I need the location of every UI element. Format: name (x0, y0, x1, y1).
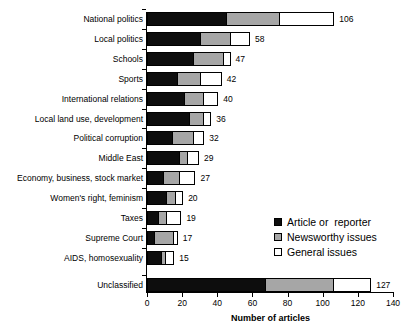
bar-segment-2 (193, 131, 205, 145)
legend-item-general[interactable]: General issues (274, 244, 377, 259)
bar-row (147, 191, 183, 205)
y-axis-tick (142, 168, 146, 169)
y-axis-tick (142, 128, 146, 129)
x-axis-tick (323, 293, 324, 297)
bar-total-label: 106 (339, 12, 353, 26)
bar-segment-2 (230, 32, 250, 46)
bar-segment-1 (193, 52, 224, 66)
y-axis-tick (142, 188, 146, 189)
bar-segment-2 (279, 12, 334, 26)
gray-square-icon (274, 233, 282, 241)
y-axis-tick (142, 29, 146, 30)
bar-segment-2 (203, 112, 211, 126)
category-label: AIDS, homosexuality (64, 253, 143, 263)
x-axis-tick (252, 293, 253, 297)
bar-segment-1 (154, 231, 174, 245)
x-axis-tick-label: 100 (308, 298, 338, 308)
bar-segment-1 (226, 12, 280, 26)
y-axis-tick (142, 148, 146, 149)
x-axis-tick-label: 80 (273, 298, 303, 308)
bar-segment-2 (175, 191, 183, 205)
bar-total-label: 127 (376, 278, 390, 292)
bar-row (147, 52, 231, 66)
category-label: International relations (62, 94, 143, 104)
bar-row (147, 131, 204, 145)
bar-segment-0 (147, 251, 162, 265)
y-axis-tick (142, 69, 146, 70)
bar-segment-0 (147, 151, 180, 165)
bar-row (147, 12, 334, 26)
bar-segment-1 (184, 92, 204, 106)
x-axis-tick (147, 293, 148, 297)
bar-row (147, 278, 371, 292)
bar-total-label: 29 (204, 151, 213, 165)
category-label: Schools (113, 54, 143, 64)
category-label: Sports (118, 74, 143, 84)
y-axis-tick (142, 9, 146, 10)
bar-segment-1 (177, 72, 201, 86)
bar-segment-0 (147, 112, 190, 126)
bar-segment-2 (223, 52, 231, 66)
x-axis-tick (393, 293, 394, 297)
bar-segment-2 (173, 231, 178, 245)
category-label: Middle East (99, 153, 143, 163)
bar-segment-0 (147, 171, 164, 185)
bar-row (147, 231, 178, 245)
bar-segment-1 (265, 278, 335, 292)
legend-item-newsworthy[interactable]: Newsworthy issues (274, 229, 377, 244)
x-axis-tick (217, 293, 218, 297)
bar-segment-0 (147, 12, 227, 26)
bar-segment-2 (203, 92, 218, 106)
bar-segment-0 (147, 191, 167, 205)
x-axis-tick-label: 120 (343, 298, 373, 308)
bar-total-label: 17 (183, 231, 192, 245)
bar-segment-0 (147, 52, 194, 66)
category-label: Local politics (94, 34, 143, 44)
legend-label-article: Article or reporter (287, 216, 371, 228)
bar-total-label: 15 (179, 251, 188, 265)
bar-segment-2 (166, 211, 181, 225)
bar-row (147, 32, 250, 46)
bar-segment-0 (147, 131, 173, 145)
legend-item-article[interactable]: Article or reporter (274, 214, 377, 229)
bar-segment-0 (147, 278, 266, 292)
y-axis-tick (142, 275, 146, 276)
bar-segment-1 (189, 112, 204, 126)
category-label: Taxes (121, 213, 143, 223)
bar-segment-2 (165, 251, 175, 265)
bar-row (147, 72, 222, 86)
bar-segment-2 (333, 278, 371, 292)
bar-segment-2 (187, 151, 199, 165)
bar-total-label: 42 (227, 72, 236, 86)
bar-segment-0 (147, 32, 201, 46)
bar-segment-2 (200, 72, 222, 86)
chart-legend: Article or reporter Newsworthy issues Ge… (274, 214, 377, 259)
category-label: National politics (83, 14, 143, 24)
x-axis-tick (358, 293, 359, 297)
x-axis-tick-label: 20 (167, 298, 197, 308)
category-label: Women's right, feminism (50, 193, 143, 203)
x-axis-tick-label: 60 (237, 298, 267, 308)
bar-segment-1 (163, 171, 180, 185)
bar-row (147, 112, 211, 126)
bar-row (147, 251, 174, 265)
bar-total-label: 20 (188, 191, 197, 205)
bar-total-label: 47 (236, 52, 245, 66)
category-label: Political corruption (74, 133, 143, 143)
legend-label-newsworthy: Newsworthy issues (287, 231, 377, 243)
bar-row (147, 211, 181, 225)
bar-segment-2 (179, 171, 196, 185)
x-axis-tick (182, 293, 183, 297)
x-axis-tick-label: 40 (202, 298, 232, 308)
bar-row (147, 92, 218, 106)
bar-total-label: 19 (186, 211, 195, 225)
category-label: Unclassified (97, 280, 143, 290)
x-axis-title: Number of articles (147, 313, 394, 323)
bar-segment-0 (147, 72, 178, 86)
y-axis-tick (142, 248, 146, 249)
bar-row (147, 171, 195, 185)
category-label: Economy, business, stock market (17, 173, 143, 183)
legend-label-general: General issues (287, 246, 357, 258)
x-axis-tick-label: 0 (132, 298, 162, 308)
x-axis-tick (288, 293, 289, 297)
